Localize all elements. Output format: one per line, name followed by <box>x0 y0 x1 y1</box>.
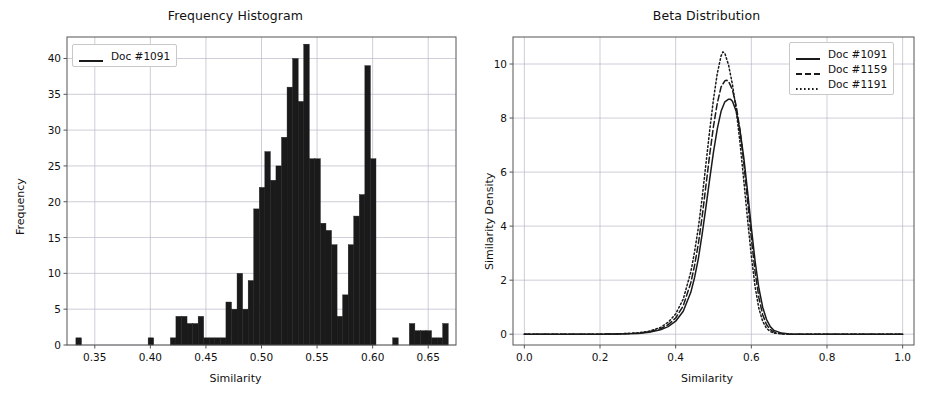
histogram-bar <box>443 324 449 345</box>
histogram-bar <box>170 338 176 345</box>
legend-label: Doc #1159 <box>828 63 887 75</box>
histogram-bar <box>293 58 299 345</box>
y-tick-label: 6 <box>483 166 507 178</box>
histogram-bar <box>231 309 237 345</box>
y-tick-label: 4 <box>483 220 507 232</box>
legend-line-dotted-icon <box>795 79 821 89</box>
histogram-bar <box>320 223 326 345</box>
histogram-bar <box>220 338 226 345</box>
histogram-bar <box>432 338 438 345</box>
x-tick-label: 0.45 <box>194 351 217 363</box>
legend-label: Doc #1191 <box>828 78 887 90</box>
x-tick-label: 0.55 <box>305 351 328 363</box>
y-tick-label: 20 <box>37 196 61 208</box>
histogram-bar <box>259 187 265 345</box>
histogram-bar <box>237 273 243 345</box>
histogram-bar <box>282 137 288 345</box>
y-tick-label: 10 <box>37 267 61 279</box>
y-tick-label: 8 <box>483 112 507 124</box>
y-tick-label: 5 <box>37 303 61 315</box>
histogram-bar <box>176 316 182 345</box>
histogram-bar <box>393 338 399 345</box>
x-tick-label: 0.6 <box>743 351 760 363</box>
y-tick-label: 10 <box>483 58 507 70</box>
y-tick-label: 0 <box>483 328 507 340</box>
x-axis-label-beta: Similarity <box>471 372 943 385</box>
histogram-bar <box>209 338 215 345</box>
x-tick-label: 0.2 <box>592 351 609 363</box>
y-tick-label: 25 <box>37 160 61 172</box>
y-tick-label: 30 <box>37 124 61 136</box>
legend-histogram[interactable]: Doc #1091 <box>72 44 177 67</box>
histogram-bar <box>437 338 443 345</box>
x-tick-label: 0.0 <box>516 351 533 363</box>
histogram-bar <box>198 316 204 345</box>
legend-beta-item[interactable]: Doc #1091 <box>795 46 887 61</box>
x-tick-label: 0.8 <box>819 351 836 363</box>
legend-histogram-item[interactable]: Doc #1091 <box>78 48 170 63</box>
y-tick-label: 2 <box>483 274 507 286</box>
histogram-bar <box>337 316 343 345</box>
histogram-bar <box>265 152 271 345</box>
x-tick-label: 0.40 <box>139 351 162 363</box>
histogram-bar <box>187 324 193 345</box>
histogram-bar <box>193 324 199 345</box>
x-axis-label-histogram: Similarity <box>0 372 471 385</box>
histogram-bar <box>148 338 154 345</box>
histogram-bar <box>304 44 310 345</box>
legend-line-dashed-icon <box>795 64 821 74</box>
legend-beta[interactable]: Doc #1091Doc #1159Doc #1191 <box>789 42 894 95</box>
y-tick-label: 0 <box>37 339 61 351</box>
histogram-bar <box>365 66 371 345</box>
y-tick-label: 15 <box>37 232 61 244</box>
histogram-bar <box>248 281 254 345</box>
histogram-bar <box>309 159 315 345</box>
histogram-bar <box>298 101 304 345</box>
panel-frequency-histogram: Frequency Histogram Similarity Frequency… <box>0 0 471 399</box>
histogram-bar <box>359 195 365 345</box>
histogram-bar <box>326 230 332 345</box>
legend-label: Doc #1091 <box>828 48 887 60</box>
histogram-bar <box>215 338 221 345</box>
histogram-bar <box>343 295 349 345</box>
legend-line-solid-icon <box>78 51 104 61</box>
y-axis-label-histogram: Frequency <box>14 178 27 235</box>
histogram-bar <box>415 331 421 345</box>
y-tick-label: 40 <box>37 52 61 64</box>
histogram-bar <box>226 302 232 345</box>
legend-beta-item[interactable]: Doc #1191 <box>795 76 887 91</box>
figure-canvas: Frequency Histogram Similarity Frequency… <box>0 0 943 399</box>
histogram-bar <box>243 309 249 345</box>
x-tick-label: 0.50 <box>250 351 273 363</box>
histogram-bar <box>76 338 82 345</box>
histogram-bar <box>315 159 321 345</box>
histogram-bar <box>287 87 293 345</box>
legend-beta-item[interactable]: Doc #1159 <box>795 61 887 76</box>
histogram-bar <box>254 209 260 345</box>
histogram-bar <box>276 166 282 345</box>
histogram-bar <box>370 159 376 345</box>
y-tick-label: 35 <box>37 88 61 100</box>
x-tick-label: 1.0 <box>894 351 911 363</box>
histogram-bar <box>348 245 354 345</box>
histogram-bar <box>354 216 360 345</box>
histogram-bar <box>181 316 187 345</box>
legend-label: Doc #1091 <box>111 50 170 62</box>
x-tick-label: 0.60 <box>361 351 384 363</box>
panel-beta-distribution: Beta Distribution Similarity Similarity … <box>471 0 942 399</box>
histogram-bar <box>204 338 210 345</box>
x-tick-label: 0.4 <box>667 351 684 363</box>
histogram-plot-area <box>0 0 471 399</box>
histogram-bar <box>270 180 276 345</box>
histogram-bar <box>332 245 338 345</box>
histogram-bar <box>420 331 426 345</box>
x-tick-label: 0.65 <box>417 351 440 363</box>
legend-line-solid-icon <box>795 49 821 59</box>
x-tick-label: 0.35 <box>83 351 106 363</box>
histogram-bar <box>426 331 432 345</box>
histogram-bar <box>409 324 415 345</box>
